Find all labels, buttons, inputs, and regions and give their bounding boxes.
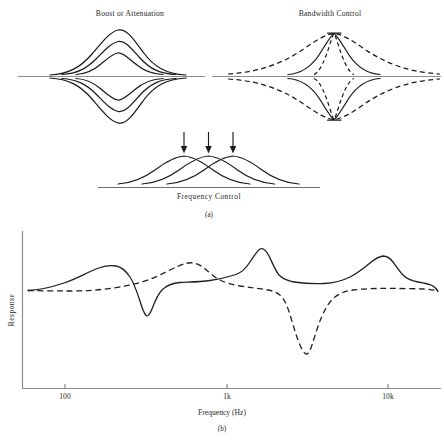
figure-canvas: Boost or Attenuation Bandwidth Control [0, 0, 444, 443]
response-trace-solid [28, 249, 438, 316]
x-tick-label-10k: 10k [382, 392, 394, 401]
x-axis-title: Frequency (Hz) [198, 408, 246, 417]
response-trace-dashed [28, 263, 438, 354]
panel-a: Boost or Attenuation Bandwidth Control [18, 9, 441, 219]
boost-or-attenuation-title: Boost or Attenuation [96, 9, 164, 18]
frequency-curve-low [118, 156, 250, 184]
bandwidth-control-title: Bandwidth Control [299, 9, 362, 18]
boost-or-attenuation-section: Boost or Attenuation [18, 9, 205, 123]
bandwidth-wide-boost-curve [228, 34, 440, 75]
x-tick-label-1k: 1k [223, 392, 231, 401]
bandwidth-medium-cut-curve [288, 79, 380, 120]
y-axis-title: Response [7, 294, 16, 327]
frequency-curve-high [167, 156, 299, 184]
frequency-control-label: Frequency Control [177, 192, 241, 201]
frequency-arrow-2 [205, 132, 211, 154]
frequency-curve-mid [142, 156, 275, 184]
boost-curve-inner [76, 53, 163, 75]
x-tick-label-100: 100 [59, 392, 71, 401]
cut-curve-middle [62, 79, 176, 112]
bandwidth-medium-boost-curve [288, 34, 380, 75]
cut-curve-inner [76, 79, 163, 101]
frequency-control-section: Frequency Control [98, 132, 320, 201]
frequency-shift-arrows [181, 132, 236, 154]
frequency-arrow-1 [181, 132, 187, 154]
boost-curve-middle [62, 41, 176, 74]
bandwidth-control-section: Bandwidth Control [212, 9, 441, 120]
equalizer-response-figure: Boost or Attenuation Bandwidth Control [0, 0, 444, 443]
frequency-arrow-3 [230, 132, 236, 154]
bandwidth-wide-cut-curve [228, 79, 440, 120]
panel-a-caption: (a) [205, 211, 214, 219]
panel-b: 100 1k 10k Response Frequency (Hz) (b) [7, 231, 441, 433]
panel-b-caption: (b) [218, 425, 227, 433]
